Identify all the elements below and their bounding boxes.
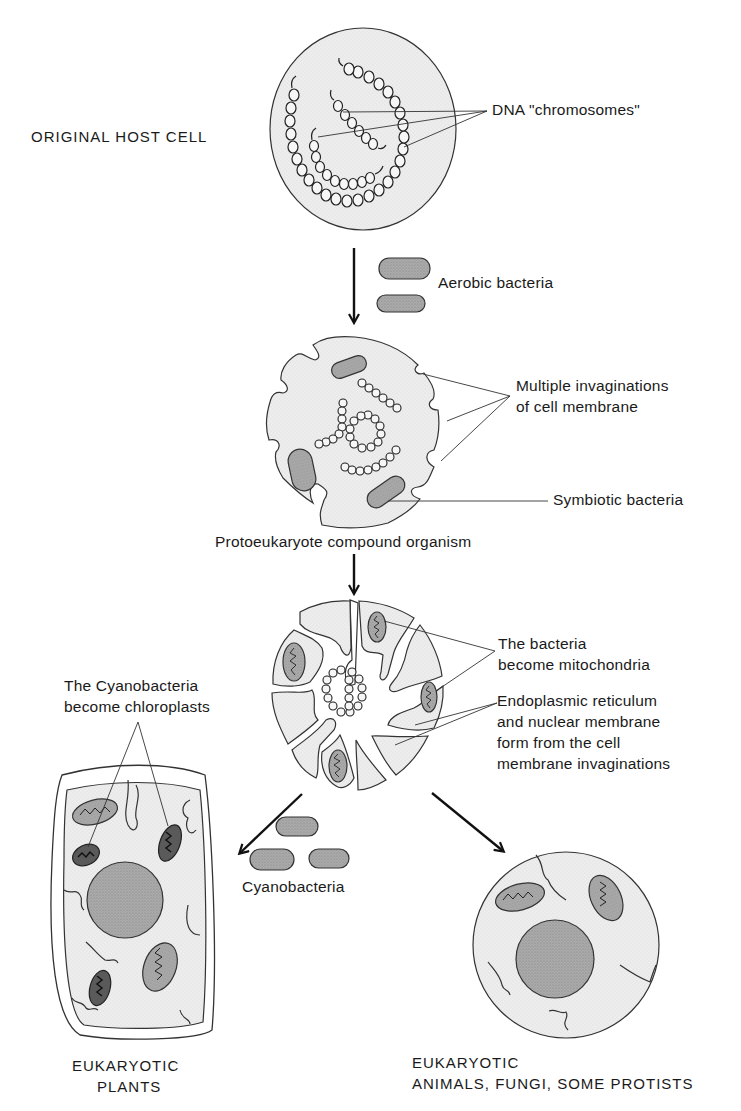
label-er-line2: and nuclear membrane xyxy=(497,711,660,732)
protoeukaryote-cell xyxy=(266,337,548,528)
label-invaginations-line2: of cell membrane xyxy=(516,396,638,417)
label-dna-chromosomes: DNA "chromosomes" xyxy=(492,99,640,120)
plant-cell xyxy=(51,722,215,1039)
aerobic-bacteria xyxy=(377,258,430,312)
label-cyano-chloro-line2: become chloroplasts xyxy=(64,696,210,717)
label-cyanobacteria: Cyanobacteria xyxy=(242,876,345,897)
label-er-line1: Endoplasmic reticulum xyxy=(497,690,657,711)
label-protoeukaryote: Protoeukaryote compound organism xyxy=(215,531,471,552)
label-er-line4: membrane invaginations xyxy=(497,753,670,774)
label-bacteria-mito-line2: become mitochondria xyxy=(498,654,650,675)
animal-cell xyxy=(473,852,659,1038)
label-invaginations-line1: Multiple invaginations xyxy=(516,375,669,396)
label-cyano-chloro-line1: The Cyanobacteria xyxy=(64,675,198,696)
cyanobacteria xyxy=(250,817,349,870)
label-original-host-cell: ORIGINAL HOST CELL xyxy=(31,126,207,147)
early-eukaryote-cell xyxy=(255,600,497,790)
label-animals-line1: EUKARYOTIC xyxy=(412,1052,519,1073)
arrow-to-animal xyxy=(432,793,503,851)
label-plants-line2: PLANTS xyxy=(97,1076,161,1097)
label-animals-line2: ANIMALS, FUNGI, SOME PROTISTS xyxy=(412,1073,694,1094)
diagram-artwork xyxy=(0,0,741,1111)
label-er-line3: form from the cell xyxy=(497,732,620,753)
endosymbiosis-diagram: ORIGINAL HOST CELL DNA "chromosomes" Aer… xyxy=(0,0,741,1111)
label-aerobic-bacteria: Aerobic bacteria xyxy=(438,272,553,293)
label-symbiotic-bacteria: Symbiotic bacteria xyxy=(553,489,683,510)
label-bacteria-mito-line1: The bacteria xyxy=(498,633,587,654)
host-cell xyxy=(270,28,487,230)
label-plants-line1: EUKARYOTIC xyxy=(72,1055,179,1076)
